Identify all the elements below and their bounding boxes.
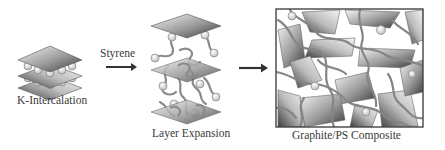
process-diagram: K-Intercalation Styrene Layer Expansion … (0, 0, 445, 150)
arrow-right-icon (239, 64, 268, 73)
expanded-layers-icon (151, 14, 221, 124)
intercalated-graphite-stack-icon (18, 46, 82, 100)
arrow-right-icon (106, 63, 137, 71)
stage-label-composite: Graphite/PS Composite (292, 129, 401, 141)
composite-box (276, 9, 423, 127)
stage-label-k-intercalation: K-Intercalation (17, 94, 87, 106)
arrow-label-styrene: Styrene (100, 47, 135, 59)
stage-label-layer-expansion: Layer Expansion (152, 127, 230, 139)
